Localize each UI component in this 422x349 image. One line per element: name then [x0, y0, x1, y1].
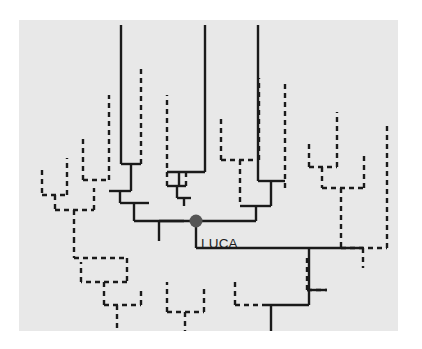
dashed-lineages-group — [42, 66, 387, 331]
dashed-tip-left-upper — [83, 95, 109, 180]
dashed-clade-far-left — [42, 158, 67, 210]
dashed-clade-bottom-center — [167, 282, 204, 331]
dashed-clade-right — [309, 112, 387, 268]
dashed-tip-bottom-right-feed — [235, 282, 264, 305]
phylogenetic-tree-panel: LUCA — [19, 20, 398, 331]
dashed-clade-center-right — [221, 78, 259, 206]
tree-diagram-svg: LUCA — [19, 20, 398, 331]
luca-node-marker — [190, 215, 203, 228]
luca-label: LUCA — [201, 236, 238, 251]
figure-root: LUCA — [0, 0, 422, 349]
dashed-clade-left-lower — [55, 188, 141, 331]
